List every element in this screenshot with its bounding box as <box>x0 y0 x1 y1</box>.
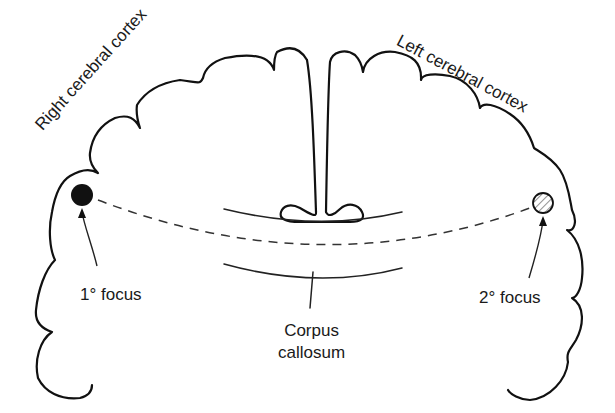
corpus-label-line1: Corpus <box>278 320 345 342</box>
primary-focus-label: 1° focus <box>80 286 142 303</box>
secondary-focus-marker <box>533 193 553 213</box>
secondary-focus-label: 2° focus <box>479 289 541 306</box>
corpus-callosum-label: Corpus callosum <box>278 320 345 364</box>
secondary-arrowhead-icon <box>539 216 547 226</box>
primary-focus-marker <box>71 184 93 206</box>
corpus-label-line2: callosum <box>278 342 345 364</box>
brain-coronal-diagram: Right cerebral cortex Left cerebral cort… <box>0 0 615 413</box>
secondary-focus-arrow <box>529 220 543 278</box>
midline-fissure-right <box>281 60 330 222</box>
primary-focus-arrow <box>82 212 97 266</box>
primary-arrowhead-icon <box>78 208 86 218</box>
right-hemisphere-outline <box>36 48 307 398</box>
